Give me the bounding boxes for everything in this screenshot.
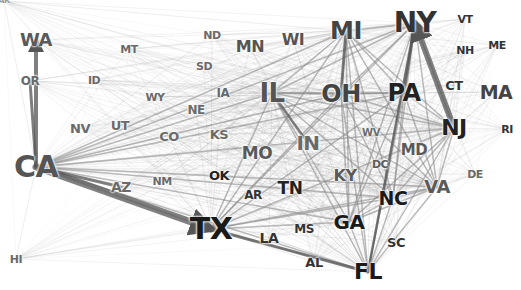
state-node-ak[interactable]: AK [0,0,10,5]
state-node-vt[interactable]: VT [457,14,472,25]
state-node-wa[interactable]: WA [20,31,52,49]
state-node-in[interactable]: IN [296,133,319,153]
state-node-pa[interactable]: PA [388,81,421,105]
state-node-al[interactable]: AL [305,256,322,269]
state-node-ms[interactable]: MS [294,223,314,235]
state-node-fl[interactable]: FL [354,261,382,283]
state-node-ne[interactable]: NE [187,104,204,116]
flow-edge [4,1,16,259]
state-node-ar[interactable]: AR [244,189,262,201]
state-node-nh[interactable]: NH [456,45,473,56]
state-node-md[interactable]: MD [401,143,427,158]
state-node-ca[interactable]: CA [14,152,58,182]
state-node-co[interactable]: CO [159,130,179,143]
state-node-la[interactable]: LA [260,231,279,245]
state-node-ga[interactable]: GA [334,212,365,232]
state-node-wv[interactable]: WV [362,128,380,138]
state-node-tn[interactable]: TN [278,180,303,197]
state-node-or[interactable]: OR [21,75,39,87]
state-node-id[interactable]: ID [88,75,100,86]
state-node-ut[interactable]: UT [111,119,129,132]
state-node-nc[interactable]: NC [379,189,408,208]
state-node-ia[interactable]: IA [217,87,230,99]
state-node-mn[interactable]: MN [236,39,264,55]
state-node-wy[interactable]: WY [145,92,164,103]
state-node-wi[interactable]: WI [282,32,305,48]
state-node-tx[interactable]: TX [190,214,233,244]
state-node-nm[interactable]: NM [152,176,171,187]
state-node-az[interactable]: AZ [111,180,131,194]
state-node-ky[interactable]: KY [334,168,357,184]
state-node-sd[interactable]: SD [196,61,212,72]
state-node-nv[interactable]: NV [70,122,90,135]
state-node-ct[interactable]: CT [445,79,462,92]
state-flow-network-diagram: AKWAORMTIDNDSDMNWYIANENVUTCOKSCAAZNMOKAR… [0,0,521,290]
state-node-mo[interactable]: MO [242,145,272,162]
state-node-mi[interactable]: MI [330,19,362,43]
state-node-sc[interactable]: SC [387,236,405,249]
flow-edge [196,35,212,110]
state-node-ma[interactable]: MA [480,83,513,102]
state-node-ny[interactable]: NY [394,9,437,37]
state-node-va[interactable]: VA [424,178,450,196]
state-node-de[interactable]: DE [467,169,483,180]
state-node-dc[interactable]: DC [372,159,388,170]
state-node-mt[interactable]: MT [120,44,137,55]
state-node-oh[interactable]: OH [321,82,361,106]
state-node-nj[interactable]: NJ [441,117,467,139]
state-node-me[interactable]: ME [488,40,505,51]
state-node-nd[interactable]: ND [203,30,220,41]
state-node-ok[interactable]: OK [209,169,229,182]
state-node-hi[interactable]: HI [10,254,22,265]
state-node-ri[interactable]: RI [501,124,513,135]
state-node-il[interactable]: IL [259,80,284,106]
state-node-ks[interactable]: KS [210,128,228,141]
